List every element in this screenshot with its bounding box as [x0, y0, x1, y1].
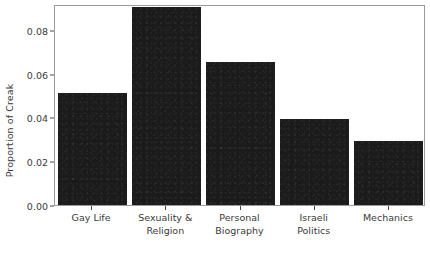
bar-chart-figure: Proportion of Creak 0.000.020.040.060.08… — [0, 0, 430, 261]
x-axis-tick-mark — [165, 206, 166, 210]
bar — [354, 141, 423, 205]
y-axis-tick-label: 0.02 — [14, 157, 48, 168]
x-axis-tick-label: Personal Biography — [215, 212, 263, 237]
bars-container — [55, 6, 424, 205]
x-axis-tick-label: Mechanics — [363, 212, 413, 225]
y-axis-tick-label: 0.04 — [14, 113, 48, 124]
x-axis-tick-label: Sexuality & Religion — [138, 212, 192, 237]
bar — [206, 62, 275, 205]
x-axis-tick-mark — [314, 206, 315, 210]
x-axis-tick-label: Israeli Politics — [297, 212, 330, 237]
bar — [280, 119, 349, 205]
x-axis-tick-label: Gay Life — [72, 212, 111, 225]
y-axis-tick-label: 0.08 — [14, 25, 48, 36]
x-axis-tick-mark — [388, 206, 389, 210]
x-axis-tick-mark — [240, 206, 241, 210]
bar — [132, 7, 201, 205]
y-axis-tick-label: 0.00 — [14, 201, 48, 212]
y-axis-tick-labels: 0.000.020.040.060.08 — [14, 0, 48, 261]
bar — [58, 93, 127, 205]
x-axis-tick-labels: Gay LifeSexuality & ReligionPersonal Bio… — [54, 212, 425, 258]
plot-area — [54, 5, 425, 206]
x-axis-tick-mark — [91, 206, 92, 210]
y-axis-tick-label: 0.06 — [14, 69, 48, 80]
